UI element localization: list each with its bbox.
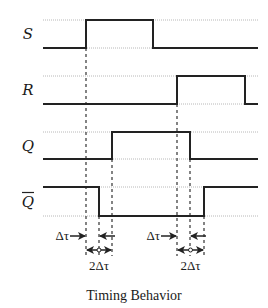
timing-guides: [86, 48, 204, 256]
delay-label: Δτ: [55, 228, 69, 243]
double-delay-midpoint-icon: [97, 248, 101, 252]
waveform-R: [43, 76, 258, 104]
delay-annotations: ΔτΔτ2Δτ2Δτ: [55, 228, 206, 273]
double-delay-midpoint-icon: [189, 248, 193, 252]
signal-label-Q: Q: [22, 137, 34, 155]
waveform-Q: [43, 132, 258, 159]
waveform-Q_bar: [43, 187, 258, 216]
diagram-title: Timing Behavior: [86, 288, 182, 303]
timing-diagram: SRQQ ΔτΔτ2Δτ2Δτ Timing Behavior: [0, 0, 268, 308]
signal-waveforms: [43, 20, 258, 216]
waveform-S: [43, 20, 258, 48]
double-delay-label: 2Δτ: [89, 258, 109, 273]
signal-label-S: S: [23, 25, 33, 43]
double-delay-label: 2Δτ: [180, 258, 200, 273]
delay-label: Δτ: [146, 228, 160, 243]
signal-label-R: R: [21, 81, 33, 99]
signal-labels: SRQQ: [21, 25, 34, 211]
signal-label-Q_bar: Q: [22, 193, 34, 211]
